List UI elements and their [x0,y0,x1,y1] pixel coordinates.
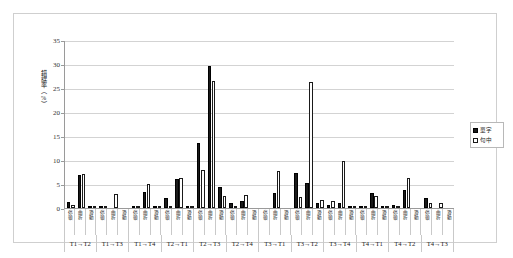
bar-group [249,41,260,208]
bar-juzhong [223,196,227,208]
bar-group [293,41,304,208]
x-axis-group-label: T2→T3 [194,235,227,252]
category-label-text: 曲折 [207,209,212,220]
category-label-text: 滑動 [380,209,385,220]
category-label-text: 滑動 [218,209,223,220]
x-axis-category-label: 滑動 [443,209,454,235]
bar-danzi [392,205,396,208]
bar-group [433,41,444,208]
x-axis-category-label: 停頓 [194,209,205,235]
category-label-text: 滑動 [413,209,418,220]
bar-danzi [208,66,212,208]
x-axis-category-label: 曲折 [75,209,86,235]
chart-frame: 錯誤率（%） 05101520253035 停頓曲折滑動停頓曲折滑動停頓曲折滑動… [13,13,497,243]
legend-label: 句中 [480,136,492,144]
bar-juzhong [396,206,400,208]
category-label-text: 曲折 [337,209,342,220]
category-label-text: 停頓 [359,209,364,220]
category-label-text: 停頓 [229,209,234,220]
bar-danzi [316,203,320,208]
bar-juzhong [104,206,108,208]
x-axis-group-label: T3→T2 [292,235,325,252]
bar-juzhong [320,200,324,208]
category-label-text: 曲折 [402,209,407,220]
bar-juzhong [244,195,248,208]
bar-danzi [88,206,92,208]
bar-juzhong [169,206,173,208]
x-axis-category-label: 曲折 [367,209,378,235]
bar-juzhong [353,206,357,208]
x-axis-category-label: 曲折 [335,209,346,235]
category-label-text: 滑動 [120,209,125,220]
legend-swatch-icon [473,138,478,143]
category-label-text: 滑動 [153,209,158,220]
x-axis-category-label: 滑動 [248,209,259,235]
bar-danzi [240,201,244,208]
x-axis-category-label: 停頓 [129,209,140,235]
bar-juzhong [136,206,140,208]
bar-group [325,41,336,208]
bar-juzhong [93,206,97,208]
category-label-text: 曲折 [370,209,375,220]
bar-group [76,41,87,208]
bar-group [271,41,282,208]
bar-group [108,41,119,208]
y-axis-tick-label: 0 [36,206,60,213]
bar-group [260,41,271,208]
x-axis-group-label: T4→T3 [422,235,455,252]
x-axis-category-label: 停頓 [227,209,238,235]
x-axis-category-label: 曲折 [237,209,248,235]
bar-juzhong [331,201,335,208]
bar-group [152,41,163,208]
y-axis-tick-label: 30 [36,62,60,69]
bar-danzi [99,206,103,208]
bar-juzhong [374,196,378,208]
bar-danzi [153,206,157,208]
bar-group [195,41,206,208]
x-axis-category-label: 停頓 [97,209,108,235]
bar-danzi [305,183,309,208]
bar-group [412,41,423,208]
bar-juzhong [158,206,162,208]
x-axis-category-label: 曲折 [140,209,151,235]
bar-group [130,41,141,208]
bar-juzhong [234,206,238,208]
category-label-text: 停頓 [424,209,429,220]
bar-juzhong [342,161,346,208]
bar-group [368,41,379,208]
category-label-text: 停頓 [67,209,72,220]
bar-juzhong [429,203,433,208]
bar-group [87,41,98,208]
category-label-text: 停頓 [326,209,331,220]
category-label-text: 曲折 [77,209,82,220]
category-label-text: 停頓 [261,209,266,220]
bar-group [401,41,412,208]
category-label-text: 曲折 [435,209,440,220]
x-axis-category-label: 停頓 [422,209,433,235]
bar-danzi [67,202,71,208]
bar-group [184,41,195,208]
x-axis-category-label: 停頓 [162,209,173,235]
bar-danzi [197,143,201,208]
x-axis-group-label: T1→T4 [129,235,162,252]
bar-juzhong [439,203,443,208]
x-axis-category-label: 曲折 [432,209,443,235]
bar-juzhong [190,206,194,208]
bar-danzi [218,187,222,208]
category-label-text: 滑動 [88,209,93,220]
y-axis-tick-label: 15 [36,134,60,141]
bar-group [347,41,358,208]
bar-group [390,41,401,208]
bar-danzi [273,193,277,208]
x-axis-category-label: 滑動 [313,209,324,235]
bar-danzi [381,206,385,208]
y-axis-tick-label: 10 [36,158,60,165]
bar-danzi [132,206,136,208]
category-label-text: 曲折 [175,209,180,220]
bar-danzi [229,203,233,208]
bar-group [173,41,184,208]
bar-danzi [348,206,352,208]
bar-group [444,41,455,208]
x-axis-category-label: 曲折 [172,209,183,235]
category-label-band: 停頓曲折滑動停頓曲折滑動停頓曲折滑動停頓曲折滑動停頓曲折滑動停頓曲折滑動停頓曲折… [64,209,454,235]
